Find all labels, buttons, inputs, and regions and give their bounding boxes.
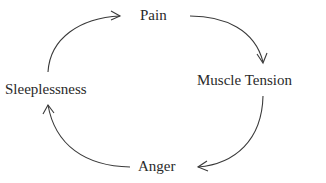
node-muscle-tension: Muscle Tension bbox=[197, 73, 292, 88]
node-anger: Anger bbox=[138, 159, 176, 174]
arrow-pain-to-muscle-tension bbox=[190, 16, 267, 63]
arrow-sleeplessness-to-pain bbox=[48, 11, 120, 72]
node-sleeplessness: Sleeplessness bbox=[5, 82, 87, 97]
node-pain: Pain bbox=[140, 8, 167, 23]
arrow-anger-to-sleeplessness bbox=[43, 105, 130, 167]
arrow-muscle-tension-to-anger bbox=[198, 96, 263, 171]
